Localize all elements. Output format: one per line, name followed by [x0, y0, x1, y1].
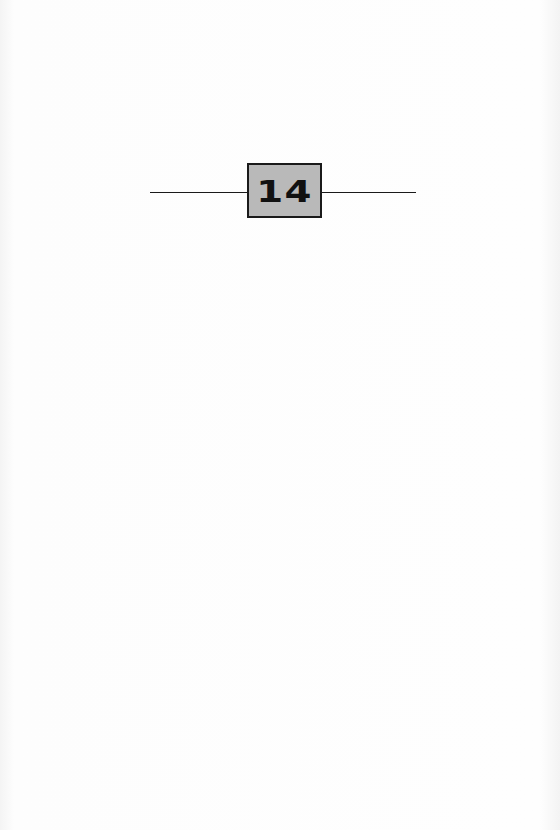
chapter-number: 14 — [256, 176, 312, 207]
book-page: 14 — [0, 0, 560, 830]
right-divider-rule — [322, 192, 416, 193]
left-divider-rule — [150, 192, 247, 193]
chapter-number-box: 14 — [247, 163, 322, 218]
